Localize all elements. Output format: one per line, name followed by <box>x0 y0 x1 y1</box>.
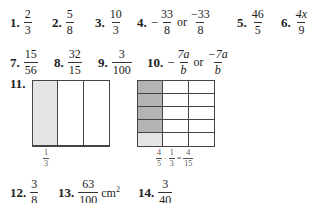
fraction: 465 <box>251 8 265 37</box>
minus-sign: − <box>167 55 174 71</box>
cell <box>189 120 214 133</box>
answer-11: 11. <box>10 76 30 92</box>
answer-8: 8. 3215 <box>54 48 82 77</box>
cell <box>189 81 214 94</box>
fraction: 340 <box>158 178 172 203</box>
answer-number: 5. <box>237 15 247 31</box>
fraction: −7ab <box>207 48 229 77</box>
fraction: 1556 <box>24 48 38 77</box>
answer-2: 2. 58 <box>52 8 74 37</box>
answer-9: 9. 3100 <box>98 48 132 77</box>
fraction: 58 <box>66 8 74 37</box>
answer-number: 4. <box>137 15 147 31</box>
dark-cell <box>138 107 163 120</box>
cell <box>163 107 188 120</box>
cell <box>189 94 214 107</box>
dark-cell <box>138 94 163 107</box>
or-text: or <box>194 55 204 70</box>
answer-number: 12. <box>10 185 26 201</box>
or-text: or <box>177 15 187 30</box>
answer-7: 7. 1556 <box>10 48 38 77</box>
shaded-cell <box>33 81 58 146</box>
answer-6: 6. 4x9 <box>281 8 308 37</box>
answer-number: 10. <box>147 55 163 71</box>
dark-cell <box>138 81 163 94</box>
answer-3: 3. 103 <box>95 8 123 37</box>
answer-13: 13. 63100 cm2 <box>58 178 123 203</box>
unit-text: cm2 <box>101 185 120 201</box>
light-cell <box>138 133 163 146</box>
fraction: 23 <box>24 8 32 37</box>
answer-number: 9. <box>98 55 108 71</box>
cell <box>163 81 188 94</box>
fraction: 38 <box>30 178 38 203</box>
cell <box>163 133 188 146</box>
answer-14: 14. 340 <box>138 178 172 203</box>
product-label: 45 · 13 = 415 <box>156 149 193 168</box>
one-third-label: 13 <box>43 149 49 168</box>
answer-number: 1. <box>10 15 20 31</box>
answer-number: 6. <box>281 15 291 31</box>
answer-number: 7. <box>10 55 20 71</box>
cell <box>163 94 188 107</box>
fraction: 4x9 <box>295 8 308 37</box>
cell <box>189 107 214 120</box>
cell <box>84 81 109 146</box>
fraction: 63100 <box>78 178 98 203</box>
answer-number: 13. <box>58 185 74 201</box>
answer-5: 5. 465 <box>237 8 265 37</box>
product-diagram <box>137 80 215 147</box>
fraction: 3215 <box>68 48 82 77</box>
dark-cell <box>138 120 163 133</box>
cell <box>189 133 214 146</box>
answer-number: 11. <box>10 76 26 92</box>
fraction: 103 <box>109 8 123 37</box>
answer-4: 4. − 338 or −338 <box>137 8 211 37</box>
answer-number: 8. <box>54 55 64 71</box>
answer-number: 2. <box>52 15 62 31</box>
cell <box>163 120 188 133</box>
cell <box>58 81 83 146</box>
fraction: 3100 <box>112 48 132 77</box>
one-third-diagram <box>32 80 110 147</box>
minus-sign: − <box>151 15 158 31</box>
answer-number: 3. <box>95 15 105 31</box>
answer-12: 12. 38 <box>10 178 38 203</box>
answer-number: 14. <box>138 185 154 201</box>
fraction: 7ab <box>177 48 191 77</box>
fraction: −338 <box>190 8 211 37</box>
fraction: 338 <box>160 8 174 37</box>
answer-10: 10. − 7ab or −7ab <box>147 48 229 77</box>
answer-1: 1. 23 <box>10 8 32 37</box>
